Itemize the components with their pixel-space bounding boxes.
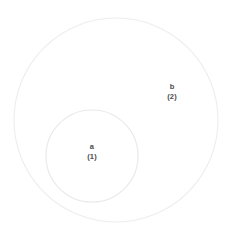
set-label-b-name: b — [152, 82, 192, 92]
set-label-a: a (1) — [72, 142, 112, 161]
set-label-b-count: (2) — [152, 92, 192, 102]
venn-diagram-canvas — [0, 0, 236, 238]
set-label-b: b (2) — [152, 82, 192, 101]
set-label-a-count: (1) — [72, 152, 112, 162]
venn-diagram: b (2) a (1) — [0, 0, 236, 238]
set-label-a-name: a — [72, 142, 112, 152]
